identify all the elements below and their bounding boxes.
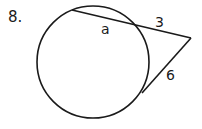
secant-line <box>72 10 191 38</box>
geometry-diagram: 8. a 3 6 <box>0 0 202 129</box>
label-tangent: 6 <box>166 67 175 83</box>
label-secant-external: 3 <box>155 14 164 30</box>
problem-number: 8. <box>8 8 22 26</box>
circle <box>37 6 149 118</box>
label-secant-internal: a <box>101 21 110 37</box>
